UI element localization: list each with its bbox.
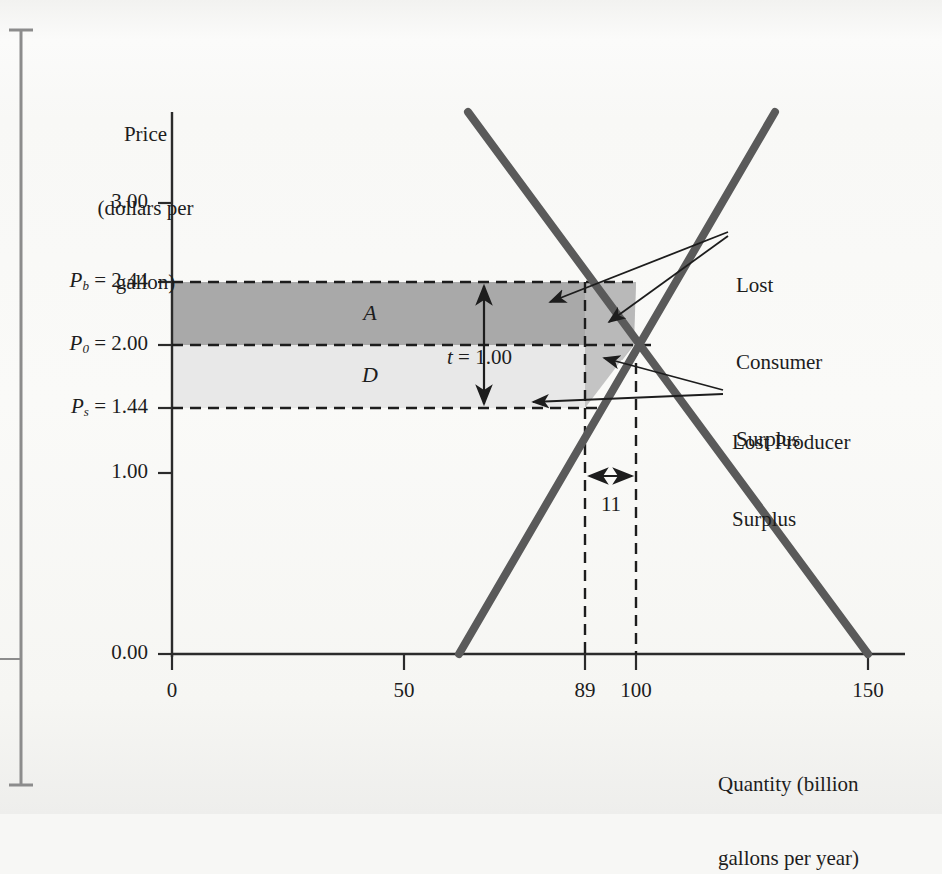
y-tick-label-0: 0.00 bbox=[100, 640, 148, 665]
lps-line2: Surplus bbox=[732, 507, 942, 533]
y-tick-label-3: 3.00 bbox=[100, 189, 148, 214]
x-tick-label-150: 150 bbox=[848, 678, 888, 703]
p0-equals: = bbox=[89, 331, 111, 355]
region-label-d: D bbox=[355, 362, 385, 388]
lcs-line2: Consumer bbox=[736, 350, 916, 376]
x-axis-title-line2: gallons per year) bbox=[718, 846, 928, 871]
x-axis-title: Quantity (billion gallons per year) bbox=[718, 722, 928, 874]
y-tick-label-1: 1.00 bbox=[100, 459, 148, 484]
tax-value: 1.00 bbox=[475, 345, 512, 369]
tax-equals: = bbox=[453, 345, 475, 369]
p0-value: 2.00 bbox=[111, 331, 148, 355]
region-label-a: A bbox=[355, 300, 385, 326]
x-tick-marks bbox=[172, 654, 868, 670]
lps-line1: Lost Producer bbox=[732, 430, 942, 456]
y-axis-title-line1: Price bbox=[78, 122, 213, 147]
x-tick-label-89: 89 bbox=[565, 678, 605, 703]
lcs-line1: Lost bbox=[736, 273, 916, 299]
tax-amount-label: t = 1.00 bbox=[447, 345, 567, 370]
pb-value: 2.44 bbox=[111, 268, 148, 292]
price-label-pb: Pb = 2.44 bbox=[38, 268, 148, 293]
ps-equals: = bbox=[89, 394, 111, 418]
page-margin-bracket bbox=[0, 29, 33, 786]
price-label-ps: Ps = 1.44 bbox=[38, 394, 148, 419]
pb-equals: = bbox=[89, 268, 111, 292]
x-tick-label-50: 50 bbox=[384, 678, 424, 703]
x-tick-label-100: 100 bbox=[611, 678, 661, 703]
quantity-reduction-label: 11 bbox=[590, 492, 632, 517]
callout-lost-producer-surplus: Lost Producer Surplus bbox=[732, 379, 942, 584]
x-tick-label-0: 0 bbox=[152, 678, 192, 703]
x-axis-title-line1: Quantity (billion bbox=[718, 772, 928, 797]
price-label-p0: P0 = 2.00 bbox=[38, 331, 148, 356]
ps-value: 1.44 bbox=[111, 394, 148, 418]
